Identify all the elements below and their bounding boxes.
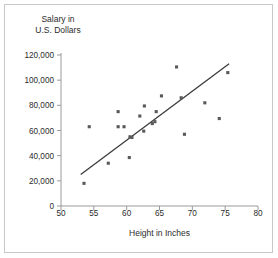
data-point-marker <box>82 182 85 185</box>
data-points-group <box>82 65 229 184</box>
data-point-marker <box>180 96 183 99</box>
axes-group <box>57 53 258 210</box>
data-point-marker <box>117 110 120 113</box>
data-point-marker <box>183 133 186 136</box>
data-point-marker <box>203 101 206 104</box>
data-point-marker <box>130 136 133 139</box>
data-point-marker <box>122 125 125 128</box>
data-point-marker <box>218 117 221 120</box>
trend-line <box>81 64 229 175</box>
data-point-marker <box>138 114 141 117</box>
chart-figure: Salary in U.S. Dollars Height in Inches … <box>0 0 278 258</box>
data-point-marker <box>226 71 229 74</box>
data-point-marker <box>160 94 163 97</box>
trend-line-group <box>81 64 229 175</box>
data-point-marker <box>153 120 156 123</box>
data-point-marker <box>88 125 91 128</box>
data-point-marker <box>107 162 110 165</box>
data-point-marker <box>175 65 178 68</box>
scatter-plot-canvas <box>0 0 278 258</box>
data-point-marker <box>142 130 145 133</box>
data-point-marker <box>117 125 120 128</box>
data-point-marker <box>128 156 131 159</box>
data-point-marker <box>143 104 146 107</box>
data-point-marker <box>155 110 158 113</box>
